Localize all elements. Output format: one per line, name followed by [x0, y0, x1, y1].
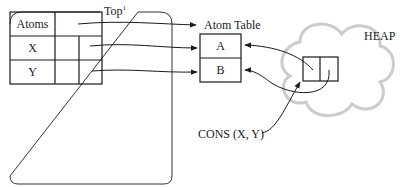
atom-entry-b: B	[200, 58, 241, 82]
cons-cell	[303, 57, 338, 81]
cons-label: CONS (X, Y)	[198, 128, 264, 140]
row-label-x: X	[10, 36, 55, 60]
arrow-cons-label-to-cell	[262, 82, 300, 133]
heap-label: HEAP	[364, 30, 395, 42]
atom-table-title: Atom Table	[204, 19, 261, 31]
arrow-top-to-atom-table	[78, 22, 196, 25]
atoms-header: Atoms	[10, 12, 55, 36]
arrow-x-to-a	[90, 45, 197, 48]
top-label: Top1	[104, 5, 126, 17]
atom-entry-a: A	[200, 34, 241, 58]
arrow-y-to-b	[92, 70, 197, 72]
diagram-canvas	[0, 0, 405, 187]
row-label-y: Y	[10, 60, 55, 84]
